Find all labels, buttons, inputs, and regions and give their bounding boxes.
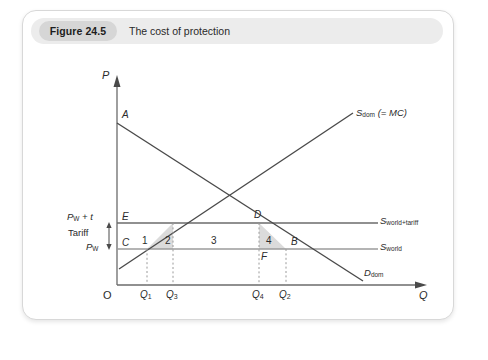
tick-label-q3: Q3 xyxy=(166,289,178,300)
price-label-pw: PW xyxy=(86,241,98,252)
price-label-pw-plus-t: PW + t xyxy=(67,211,93,222)
figure-title: The cost of protection xyxy=(129,21,230,41)
p-axis-arrow xyxy=(114,75,121,87)
q-axis-arrow xyxy=(415,282,427,289)
tick-label-q1: Q1 xyxy=(140,289,152,300)
axis-label-quantity: Q xyxy=(419,289,428,301)
point-label-d: D xyxy=(254,209,261,220)
region-label-3: 3 xyxy=(211,235,217,246)
demand-dom-curve xyxy=(117,123,363,281)
point-label-a: A xyxy=(122,109,129,120)
point-label-c: C xyxy=(122,237,129,248)
tariff-arrow-head-up xyxy=(106,222,111,228)
axis-label-origin: O xyxy=(103,289,112,301)
curve-label-demand-dom: Ddom xyxy=(364,267,384,278)
region-label-4: 4 xyxy=(266,235,272,246)
tariff-label: Tariff xyxy=(68,227,88,238)
region-label-1: 1 xyxy=(142,235,148,246)
shaded-region-4 xyxy=(259,223,286,249)
point-label-e: E xyxy=(122,211,129,222)
region-label-2: 2 xyxy=(165,235,171,246)
figure-header-band: Figure 24.5 The cost of protection xyxy=(31,18,443,44)
tariff-arrow-head-down xyxy=(106,244,111,250)
tick-label-q2: Q2 xyxy=(279,289,291,300)
point-label-b: B xyxy=(291,236,298,247)
curve-label-supply-world: Sworld xyxy=(380,241,402,252)
diagram-svg xyxy=(23,45,453,319)
figure-card: Figure 24.5 The cost of protection xyxy=(22,10,454,320)
figure-number-badge: Figure 24.5 xyxy=(39,21,117,41)
diagram-plot-area: P Q O A E C D B F 1 2 3 4 PW + t PW Tari… xyxy=(23,45,453,319)
point-label-f: F xyxy=(261,251,267,262)
supply-dom-curve xyxy=(119,113,353,269)
axis-label-price: P xyxy=(102,69,109,81)
curve-label-supply-world-tariff: Sworld+tariff xyxy=(380,215,418,226)
tick-label-q4: Q4 xyxy=(252,289,264,300)
curve-label-supply-dom: Sdom (= MC) xyxy=(356,107,407,118)
